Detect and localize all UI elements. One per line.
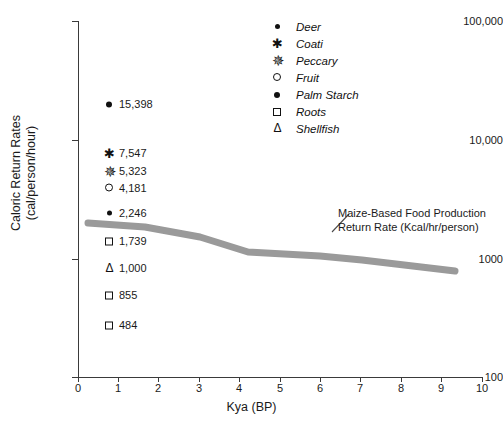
data-point-label: 4,181 xyxy=(119,183,147,194)
data-point-roots-484: 484 xyxy=(104,320,137,331)
data-point-roots-855: 855 xyxy=(104,290,137,301)
open-square-marker-icon xyxy=(272,106,283,117)
filled-circle-marker-icon xyxy=(272,89,283,100)
data-point-roots-1739: 1,739 xyxy=(104,236,147,247)
legend-item-coati: ✱ Coati xyxy=(272,35,359,52)
caloric-return-rates-chart: 100,000 10,000 1000 100 0 1 2 3 4 5 6 7 … xyxy=(0,0,503,424)
y-axis-title-line2: (cal/person/hour) xyxy=(24,63,39,283)
legend-item-fruit: Fruit xyxy=(272,69,359,86)
x-tick-label-7: 7 xyxy=(345,383,375,394)
y-axis-title-line1: Caloric Return Rates xyxy=(9,115,23,231)
data-point-fruit: 4,181 xyxy=(104,183,147,194)
x-axis-title: Kya (BP) xyxy=(0,400,503,414)
y-tick-100000 xyxy=(72,21,78,22)
data-point-deer: 15,398 xyxy=(104,99,153,110)
legend-label: Shellfish xyxy=(296,123,339,135)
x-tick-label-2: 2 xyxy=(143,383,173,394)
legend-item-deer: Deer xyxy=(272,18,359,35)
star-6-bold-marker-icon: ✵ xyxy=(272,55,283,66)
open-triangle-marker-icon: Δ xyxy=(272,123,283,134)
open-square-marker-icon xyxy=(104,320,115,331)
x-tick-label-9: 9 xyxy=(426,383,456,394)
open-square-marker-icon xyxy=(104,290,115,301)
legend-item-roots: Roots xyxy=(272,103,359,120)
data-point-coati: ✱ 7,547 xyxy=(104,148,147,159)
data-point-label: 15,398 xyxy=(119,99,153,110)
chart-legend: Deer ✱ Coati ✵ Peccary Fruit Palm Starch… xyxy=(272,18,359,137)
legend-label: Peccary xyxy=(296,55,338,67)
y-tick-label-100: 100 xyxy=(437,372,503,383)
annotation-line1: Maize-Based Food Production xyxy=(338,207,486,219)
filled-circle-marker-icon xyxy=(104,208,115,219)
open-circle-marker-icon xyxy=(272,72,283,83)
data-point-label: 1,000 xyxy=(119,263,147,274)
data-point-label: 484 xyxy=(119,320,137,331)
x-tick-label-8: 8 xyxy=(386,383,416,394)
data-point-palm-starch: 2,246 xyxy=(104,208,147,219)
x-tick-label-10: 10 xyxy=(467,383,497,394)
data-point-label: 1,739 xyxy=(119,236,147,247)
y-tick-label-1000: 1000 xyxy=(437,254,503,265)
legend-label: Fruit xyxy=(296,72,319,84)
x-tick-label-0: 0 xyxy=(63,383,93,394)
legend-item-shellfish: Δ Shellfish xyxy=(272,120,359,137)
legend-label: Palm Starch xyxy=(296,89,359,101)
y-tick-10000 xyxy=(72,140,78,141)
open-square-marker-icon xyxy=(104,236,115,247)
legend-item-peccary: ✵ Peccary xyxy=(272,52,359,69)
x-tick-label-4: 4 xyxy=(224,383,254,394)
y-axis-title: Caloric Return Rates (cal/person/hour) xyxy=(9,63,39,283)
y-tick-label-100000: 100,000 xyxy=(437,16,503,27)
filled-circle-marker-icon xyxy=(272,21,283,32)
y-axis-line xyxy=(78,21,79,378)
star-5-marker-icon: ✱ xyxy=(272,38,283,49)
legend-item-palm-starch: Palm Starch xyxy=(272,86,359,103)
x-tick-label-1: 1 xyxy=(103,383,133,394)
data-point-peccary: ✵ 5,323 xyxy=(104,166,147,177)
x-tick-label-3: 3 xyxy=(184,383,214,394)
data-point-label: 7,547 xyxy=(119,148,147,159)
y-tick-label-10000: 10,000 xyxy=(437,135,503,146)
star-5-marker-icon: ✱ xyxy=(104,148,115,159)
star-6-bold-marker-icon: ✵ xyxy=(104,166,115,177)
filled-circle-marker-icon xyxy=(104,99,115,110)
maize-line-annotation: Maize-Based Food Production Return Rate … xyxy=(338,206,486,234)
data-point-shellfish: Δ 1,000 xyxy=(104,263,147,274)
legend-label: Roots xyxy=(296,106,326,118)
data-point-label: 2,246 xyxy=(119,208,147,219)
open-triangle-marker-icon: Δ xyxy=(104,263,115,274)
y-tick-1000 xyxy=(72,259,78,260)
data-point-label: 855 xyxy=(119,290,137,301)
legend-label: Coati xyxy=(296,38,323,50)
x-tick-label-6: 6 xyxy=(305,383,335,394)
annotation-line2: Return Rate (Kcal/hr/person) xyxy=(338,220,486,234)
legend-label: Deer xyxy=(296,21,321,33)
x-tick-label-5: 5 xyxy=(265,383,295,394)
open-circle-marker-icon xyxy=(104,183,115,194)
data-point-label: 5,323 xyxy=(119,166,147,177)
